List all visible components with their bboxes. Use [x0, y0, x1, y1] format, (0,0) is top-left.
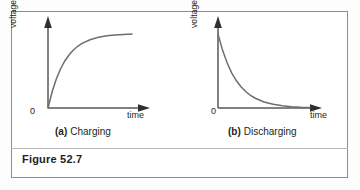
discharging-subcaption-tag: (b) — [228, 126, 241, 137]
chart-panel-charging — [6, 0, 176, 140]
charging-subcaption-title: Charging — [70, 126, 111, 137]
discharging-subcaption-title: Discharging — [244, 126, 297, 137]
discharging-origin-label: 0 — [211, 106, 216, 116]
charging-x-axis-label: time — [127, 110, 144, 120]
charging-subcaption: (a)Charging — [55, 126, 111, 137]
charging-y-axis-label: voltage or charge — [8, 0, 18, 28]
figure-container: voltage or charge 0 time (a)Charging vol… — [0, 0, 360, 190]
charging-y-axis-arrow-icon — [44, 16, 52, 28]
chart-panel-discharging — [186, 0, 356, 140]
discharging-y-axis-arrow-icon — [214, 16, 222, 28]
charging-curve — [48, 34, 132, 108]
charging-subcaption-tag: (a) — [55, 126, 67, 137]
discharging-x-axis-label: time — [310, 110, 327, 120]
discharging-y-axis-label: voltage or charge — [189, 0, 199, 28]
discharging-curve — [218, 34, 310, 107]
discharging-plot-svg — [186, 0, 356, 140]
charging-plot-svg — [6, 0, 176, 140]
charging-origin-label: 0 — [30, 106, 35, 116]
caption-divider — [11, 148, 348, 149]
discharging-subcaption: (b)Discharging — [228, 126, 297, 137]
figure-caption: Figure 52.7 — [22, 153, 82, 165]
